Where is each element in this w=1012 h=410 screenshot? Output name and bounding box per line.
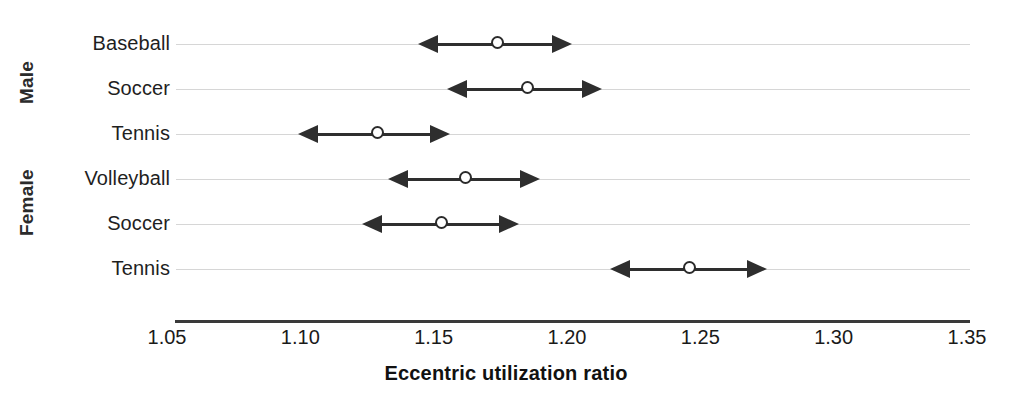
x-axis-line: [175, 320, 970, 323]
x-tick-label: 1.05: [148, 326, 187, 349]
x-tick-label: 1.30: [814, 326, 853, 349]
chart-figure: Male Female Baseball Soccer Tennis Volle…: [0, 0, 1012, 410]
x-tick-label: 1.35: [948, 326, 987, 349]
data-point-marker: [459, 171, 472, 184]
interval-arrow-right: [430, 125, 450, 143]
x-tick-label: 1.25: [681, 326, 720, 349]
gridline: [176, 134, 970, 135]
gridline: [176, 269, 970, 270]
interval-arrow-right: [499, 215, 519, 233]
interval-arrow-left: [447, 80, 467, 98]
interval-arrow-left: [418, 35, 438, 53]
interval-arrow-right: [520, 170, 540, 188]
interval-arrow-right: [582, 80, 602, 98]
interval-arrow-right: [747, 260, 767, 278]
gridline: [176, 44, 970, 45]
interval-arrow-left: [388, 170, 408, 188]
interval-arrow-left: [298, 125, 318, 143]
x-axis-title: Eccentric utilization ratio: [0, 362, 1012, 385]
interval-arrow-left: [362, 215, 382, 233]
data-point-marker: [521, 81, 534, 94]
gridline: [176, 224, 970, 225]
gridline: [176, 179, 970, 180]
data-point-marker: [435, 216, 448, 229]
x-tick-label: 1.15: [414, 326, 453, 349]
data-point-marker: [371, 126, 384, 139]
interval-arrow-left: [610, 260, 630, 278]
x-tick-label: 1.10: [281, 326, 320, 349]
data-point-marker: [683, 261, 696, 274]
interval-arrow-right: [552, 35, 572, 53]
data-point-marker: [491, 36, 504, 49]
x-tick-label: 1.20: [548, 326, 587, 349]
